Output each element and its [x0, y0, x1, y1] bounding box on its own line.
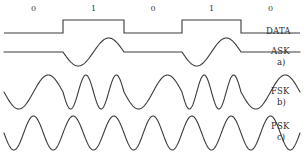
- data-waveform: [4, 20, 300, 33]
- bit-label: 0: [145, 4, 161, 14]
- signal-label-fsk: FSK: [271, 86, 290, 96]
- signal-label-ask: ASK: [271, 46, 290, 56]
- psk-waveform-path: [4, 116, 300, 150]
- signal-sublabel-fsk: b): [277, 97, 286, 107]
- signal-sublabel-psk: c): [277, 132, 285, 142]
- ask-waveform-path: [4, 38, 300, 66]
- bit-label: 1: [204, 4, 220, 14]
- signal-label-data: DATA: [266, 26, 291, 36]
- ask-waveform: [4, 38, 300, 66]
- modulation-figure: 01010 DATA ASK a) FSK b) PSK c): [0, 0, 307, 158]
- waveform-canvas: [0, 0, 307, 158]
- bit-label: 0: [26, 4, 42, 14]
- bit-label: 1: [86, 4, 102, 14]
- signal-sublabel-ask: a): [277, 57, 285, 67]
- fsk-waveform: [4, 75, 300, 109]
- bit-label: 0: [263, 4, 279, 14]
- signal-label-psk: PSK: [271, 121, 290, 131]
- data-waveform-path: [4, 20, 300, 33]
- fsk-waveform-path: [4, 75, 300, 109]
- psk-waveform: [4, 116, 300, 150]
